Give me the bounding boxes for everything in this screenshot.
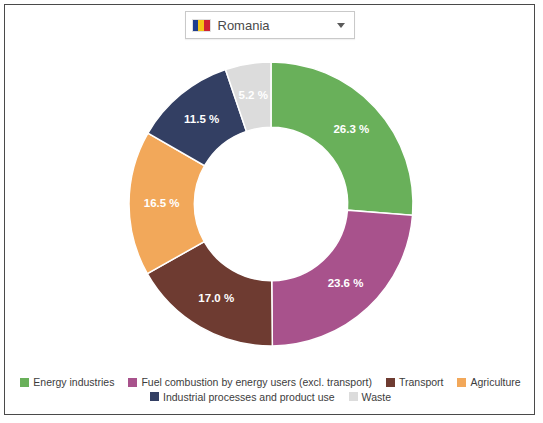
legend-item-label: Transport	[399, 377, 444, 388]
legend-color-swatch	[457, 378, 466, 387]
legend-item-label: Industrial processes and product use	[163, 392, 335, 403]
legend-item[interactable]: Agriculture	[457, 377, 520, 388]
donut-slice[interactable]	[271, 62, 413, 215]
legend-row-1: Energy industriesFuel combustion by ener…	[5, 377, 536, 388]
slice-value-label: 17.0 %	[198, 292, 234, 304]
country-dropdown-value: Romania	[218, 19, 337, 32]
legend-item[interactable]: Fuel combustion by energy users (excl. t…	[128, 377, 372, 388]
legend-color-swatch	[150, 392, 159, 401]
legend-item-label: Agriculture	[470, 377, 520, 388]
romania-flag-icon	[192, 19, 211, 32]
slice-value-label: 23.6 %	[327, 277, 363, 289]
slice-value-label: 11.5 %	[184, 113, 219, 125]
chart-legend: Energy industriesFuel combustion by ener…	[5, 377, 536, 406]
legend-color-swatch	[349, 392, 358, 401]
slice-value-label: 26.3 %	[333, 123, 369, 135]
legend-item[interactable]: Energy industries	[20, 377, 114, 388]
chart-panel: Romania 26.3 %23.6 %17.0 %16.5 %11.5 %5.…	[4, 4, 535, 415]
slice-value-label: 5.2 %	[238, 89, 267, 101]
legend-item[interactable]: Waste	[349, 392, 391, 403]
donut-chart: 26.3 %23.6 %17.0 %16.5 %11.5 %5.2 %	[5, 49, 536, 369]
legend-item[interactable]: Transport	[386, 377, 444, 388]
legend-item[interactable]: Industrial processes and product use	[150, 392, 335, 403]
country-selector-container: Romania	[5, 11, 534, 39]
legend-item-label: Energy industries	[33, 377, 114, 388]
legend-color-swatch	[386, 378, 395, 387]
chevron-down-icon[interactable]	[337, 23, 345, 28]
legend-row-2: Industrial processes and product useWast…	[5, 392, 536, 403]
legend-item-label: Fuel combustion by energy users (excl. t…	[141, 377, 372, 388]
legend-color-swatch	[128, 378, 137, 387]
slice-value-label: 16.5 %	[143, 197, 179, 209]
donut-chart-svg: 26.3 %23.6 %17.0 %16.5 %11.5 %5.2 %	[61, 49, 481, 359]
legend-color-swatch	[20, 378, 29, 387]
legend-item-label: Waste	[362, 392, 391, 403]
country-dropdown[interactable]: Romania	[185, 11, 355, 39]
